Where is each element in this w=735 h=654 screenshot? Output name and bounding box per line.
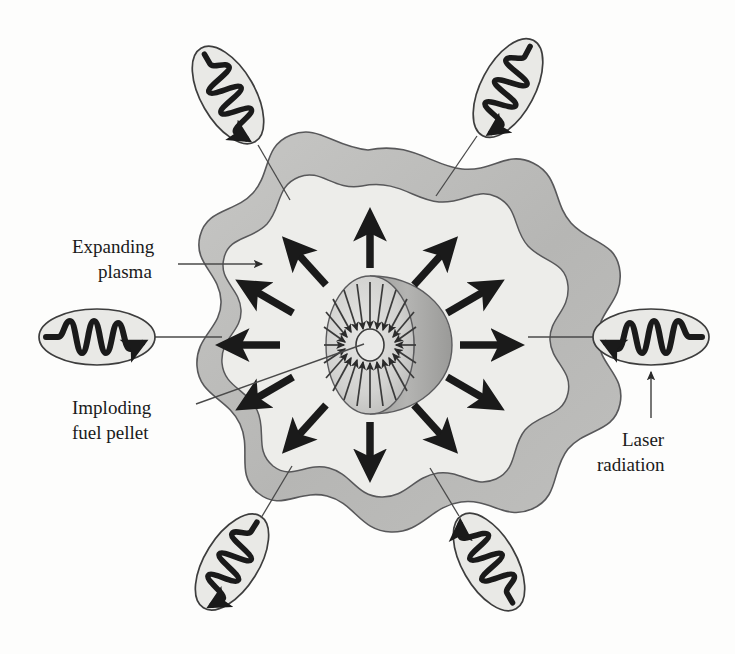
label-imploding-fuel-pellet-line1: Imploding (72, 397, 152, 418)
label-laser-radiation-line2: radiation (597, 454, 665, 475)
label-laser-radiation-line1: Laser (622, 429, 665, 450)
label-imploding-fuel-pellet-line2: fuel pellet (72, 422, 149, 443)
figure-canvas: Expanding plasma Imploding fuel pellet L… (0, 0, 735, 654)
ICF-diagram: Expanding plasma Imploding fuel pellet L… (0, 0, 735, 654)
label-expanding-plasma-line1: Expanding (72, 236, 155, 257)
label-expanding-plasma-line2: plasma (98, 261, 152, 282)
